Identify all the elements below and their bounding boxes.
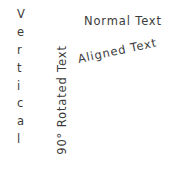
vertical-label-char-1: e: [17, 24, 24, 42]
vertical-label-char-6: a: [17, 113, 24, 131]
rotated-90-label: 90° Rotated Text: [55, 45, 69, 155]
normal-text-label: Normal Text: [84, 14, 162, 28]
vertical-stacked-label: V e r t i c a l: [17, 6, 33, 149]
vertical-label-char-5: c: [17, 95, 24, 113]
vertical-label-char-0: V: [17, 6, 25, 24]
vertical-label-char-4: i: [17, 78, 20, 96]
vertical-label-char-2: r: [17, 42, 22, 60]
vertical-label-char-3: t: [17, 60, 22, 78]
aligned-text-label: Aligned Text: [77, 35, 158, 65]
vertical-label-char-7: l: [17, 131, 20, 149]
text-orientation-canvas: V e r t i c a l 90° Rotated Text Normal …: [0, 0, 179, 180]
